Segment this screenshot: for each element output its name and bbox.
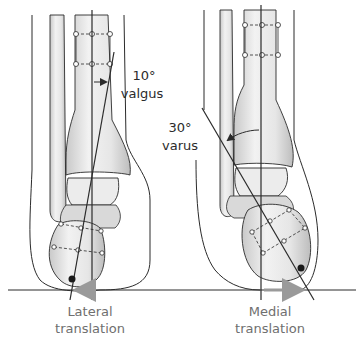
left-angle-label: 10°: [126, 68, 162, 84]
right-tibia: [234, 10, 293, 167]
medial-translation-label-line1: Medial: [220, 304, 320, 320]
left-talus: [67, 178, 119, 205]
right-fibula: [220, 10, 234, 217]
right-heel-contact-point: [298, 265, 305, 272]
right-deformity-label: varus: [156, 138, 204, 154]
hindfoot-alignment-diagram: [0, 0, 360, 342]
medial-translation-label-line2: translation: [220, 321, 320, 337]
lateral-translation-label-line1: Lateral: [40, 304, 140, 320]
left-fibula: [50, 15, 66, 222]
lateral-translation-label-line2: translation: [40, 321, 140, 337]
left-deformity-label: valgus: [114, 86, 170, 102]
right-foot-varus: [196, 5, 318, 300]
left-foot-valgus: [30, 10, 150, 300]
left-calcaneus: [49, 221, 105, 287]
left-heel-contact-point: [69, 276, 76, 283]
right-angle-label: 30°: [162, 120, 198, 136]
